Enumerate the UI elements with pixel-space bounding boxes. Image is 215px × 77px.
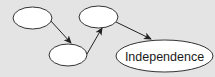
node-4-independence: Independence <box>116 40 213 72</box>
node-1 <box>13 7 52 29</box>
node-1-ellipse <box>13 7 52 29</box>
node-3-ellipse <box>79 6 118 28</box>
node-2-ellipse <box>49 44 87 66</box>
arrow-node1-to-node2 <box>50 20 71 43</box>
arrow-node3-to-node4 <box>116 22 151 39</box>
node-4-label: Independence <box>125 50 204 64</box>
diagram-canvas: Independence <box>0 0 215 77</box>
node-3 <box>79 6 118 28</box>
node-2 <box>49 44 87 66</box>
arrow-node2-to-node3 <box>87 28 102 54</box>
flow-diagram: Independence <box>0 0 215 77</box>
